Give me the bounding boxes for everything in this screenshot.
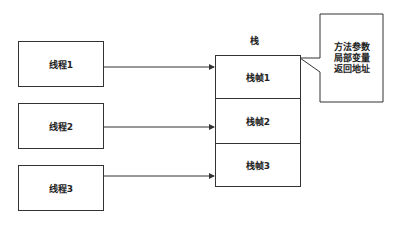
stack-frame-2: 栈帧2	[216, 99, 300, 144]
callout-line-return: 返回地址	[322, 64, 382, 75]
callout-line-locals: 局部变量	[322, 53, 382, 64]
thread-label: 线程2	[49, 120, 73, 133]
thread-label: 线程3	[49, 182, 73, 195]
callout-line-params: 方法参数	[322, 42, 382, 53]
stack-frame-3: 栈帧3	[216, 144, 300, 186]
frame-label: 栈帧2	[246, 115, 270, 128]
frame-label: 栈帧1	[246, 71, 270, 84]
callout-text: 方法参数 局部变量 返回地址	[322, 42, 382, 75]
thread-label: 线程1	[49, 58, 73, 71]
thread-box-2: 线程2	[18, 103, 104, 149]
frame-label: 栈帧3	[246, 159, 270, 172]
thread-box-3: 线程3	[18, 165, 104, 211]
stack-box: 栈帧1 栈帧2 栈帧3	[215, 55, 301, 187]
stack-title: 栈	[250, 34, 259, 47]
stack-frame-1: 栈帧1	[216, 56, 300, 99]
thread-box-1: 线程1	[18, 41, 104, 87]
